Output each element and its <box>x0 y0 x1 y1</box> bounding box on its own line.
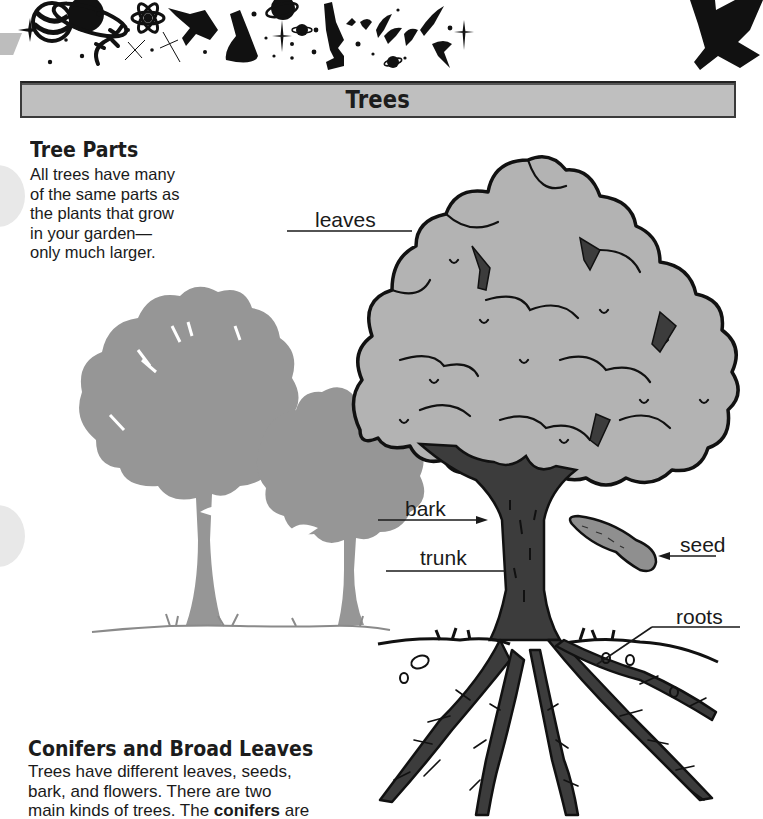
flask-icon <box>226 10 258 62</box>
tree-silhouettes <box>79 287 424 625</box>
atom-icon <box>132 1 164 35</box>
section-body-tree-parts: All trees have many of the same parts as… <box>30 165 230 263</box>
ground-line <box>378 628 718 662</box>
root-hairs <box>394 676 706 800</box>
section-heading-conifers: Conifers and Broad Leaves <box>28 736 313 761</box>
page-title: Trees <box>346 86 411 114</box>
space-shuttle-icon <box>168 8 218 46</box>
label-leaves: leaves <box>315 208 376 232</box>
leader-lines <box>287 231 740 665</box>
label-bark: bark <box>405 497 446 521</box>
grass-line <box>92 614 390 632</box>
text-span: main kinds of trees. The <box>28 801 214 819</box>
section-heading-tree-parts: Tree Parts <box>30 137 138 162</box>
text-line: All trees have many <box>30 165 230 185</box>
text-line: bark, and flowers. There are two <box>28 782 408 802</box>
edge-tab-decoration <box>0 505 25 567</box>
soil-pebbles <box>400 653 678 697</box>
text-span: are <box>280 801 309 819</box>
text-line: only much larger. <box>30 243 230 263</box>
leader-arrowheads <box>476 516 670 560</box>
tree-canopy <box>353 157 738 485</box>
text-line: in your garden— <box>30 224 230 244</box>
label-seed: seed <box>680 533 726 557</box>
tree-roots <box>380 640 716 815</box>
page-title-bar: Trees <box>20 81 736 118</box>
label-roots: roots <box>676 605 723 629</box>
term-conifers: conifers <box>214 801 280 819</box>
text-line: of the same parts as <box>30 185 230 205</box>
science-banner <box>0 0 763 72</box>
microscope-icon <box>324 2 344 70</box>
tree-parts-diagram <box>0 0 763 819</box>
sparkle-icon <box>125 32 180 62</box>
text-line: the plants that grow <box>30 204 230 224</box>
text-line: Trees have different leaves, seeds, <box>28 762 408 782</box>
seed-illustration <box>570 516 656 571</box>
lizard-icon <box>96 26 122 64</box>
text-line: main kinds of trees. The conifers are <box>28 801 408 819</box>
roots-leader-line <box>596 627 740 665</box>
tree-trunk <box>420 444 576 640</box>
edge-tab-decoration <box>0 165 25 227</box>
label-trunk: trunk <box>420 546 467 570</box>
satellite-icon <box>690 0 763 70</box>
section-body-conifers: Trees have different leaves, seeds, bark… <box>28 762 408 819</box>
